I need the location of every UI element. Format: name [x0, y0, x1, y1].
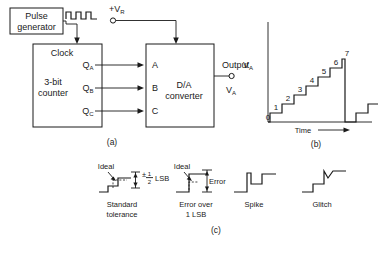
- error-item-error-over-1-lsb: Ideal Error Error over 1 LSB: [174, 162, 226, 219]
- clock-pulse-train-waveform: [66, 12, 97, 19]
- error-item-standard-tolerance: Ideal ± 1 2 LSB Standard tolerance: [98, 162, 169, 219]
- staircase-step-label-6: 6: [334, 58, 339, 67]
- staircase-step-label-5: 5: [322, 67, 327, 76]
- dac-input-c-arrow: [138, 108, 145, 114]
- standard-tolerance-caption-line2: tolerance: [107, 210, 138, 219]
- staircase-step-label-4: 4: [310, 76, 315, 85]
- tolerance-denominator: 2: [148, 179, 152, 185]
- counter-label-line1: 3-bit: [44, 77, 62, 87]
- staircase-step-label-7: 7: [345, 49, 350, 58]
- staircase-step-label-0: 0: [266, 113, 271, 122]
- reference-voltage-label: +VR: [109, 4, 125, 15]
- counter-output-qc-label: QC: [82, 106, 94, 117]
- dac-input-c-label: C: [152, 106, 159, 116]
- dac-label-line2: converter: [165, 91, 203, 101]
- staircase-axes: [268, 22, 372, 122]
- dac-input-a-arrow: [138, 62, 145, 68]
- error-magnitude-label: Error: [209, 177, 226, 186]
- caption-a: (a): [107, 137, 118, 147]
- error-over-lsb-caption-line2: 1 LSB: [186, 210, 206, 219]
- dac-reference-arrow: [173, 38, 179, 45]
- tolerance-sign: ±: [142, 170, 146, 179]
- part-c-error-types: Ideal ± 1 2 LSB Standard tolerance Ideal: [98, 162, 346, 235]
- glitch-caption: Glitch: [312, 200, 331, 209]
- clock-input-label: Clock: [51, 48, 74, 58]
- error-over-lsb-ideal-label: Ideal: [174, 162, 191, 171]
- dac-input-a-label: A: [152, 60, 158, 70]
- staircase-x-axis-label: Time: [295, 126, 311, 135]
- reference-to-dac-wire: [116, 21, 176, 41]
- figure-dac-test-and-errors: Pulse generator +VR Clock 3-bit counter …: [0, 0, 384, 261]
- caption-b: (b): [311, 139, 322, 149]
- error-over-lsb-actual-step: [176, 174, 206, 192]
- spike-caption: Spike: [245, 200, 264, 209]
- error-over-lsb-ideal-step: [189, 182, 199, 190]
- pulse-generator-label-line2: generator: [17, 22, 56, 32]
- error-over-lsb-caption-line1: Error over: [179, 200, 213, 209]
- standard-tolerance-caption-line1: Standard: [107, 200, 137, 209]
- output-terminal-node: [229, 73, 234, 78]
- figure-canvas: Pulse generator +VR Clock 3-bit counter …: [0, 0, 384, 261]
- part-b-staircase: VA Time 0 1 2 3 4 5 6 7 (b): [243, 22, 378, 149]
- standard-tolerance-ideal-label: Ideal: [98, 162, 115, 171]
- reference-voltage-subscript: R: [120, 9, 125, 15]
- pulse-generator-label-line1: Pulse: [25, 11, 48, 21]
- error-arrow-head-down: [205, 186, 209, 191]
- part-a-circuit: Pulse generator +VR Clock 3-bit counter …: [10, 4, 250, 147]
- counter-label-line2: counter: [38, 88, 68, 98]
- standard-tolerance-ideal-step: [113, 180, 127, 188]
- staircase-step-label-1: 1: [274, 103, 279, 112]
- caption-c: (c): [211, 225, 221, 235]
- dac-input-b-label: B: [152, 83, 158, 93]
- counter-output-qb-label: QB: [82, 83, 93, 94]
- staircase-step-label-3: 3: [298, 85, 303, 94]
- clock-input-arrow: [74, 38, 80, 45]
- dac-label-line1: D/A: [176, 80, 191, 90]
- staircase-y-axis-label: VA: [243, 60, 253, 71]
- error-item-glitch: Glitch: [302, 171, 346, 209]
- tolerance-arrow-head-up: [133, 173, 137, 178]
- output-signal-label: VA: [226, 85, 236, 96]
- glitch-waveform: [302, 171, 346, 192]
- reference-voltage-sign: +V: [109, 4, 120, 14]
- tolerance-numerator: 1: [148, 171, 152, 177]
- spike-waveform: [234, 173, 276, 192]
- pulse-gen-to-clock-wire: [66, 21, 77, 40]
- tolerance-unit-label: LSB: [155, 174, 169, 183]
- reference-terminal-node: [110, 18, 115, 23]
- dac-input-b-arrow: [138, 85, 145, 91]
- staircase-step-label-2: 2: [286, 94, 291, 103]
- tolerance-arrow-head-down: [133, 182, 137, 187]
- counter-output-qa-label: QA: [82, 60, 93, 71]
- error-arrow-head-up: [205, 171, 209, 176]
- error-item-spike: Spike: [234, 173, 276, 209]
- time-arrow-head: [344, 127, 351, 132]
